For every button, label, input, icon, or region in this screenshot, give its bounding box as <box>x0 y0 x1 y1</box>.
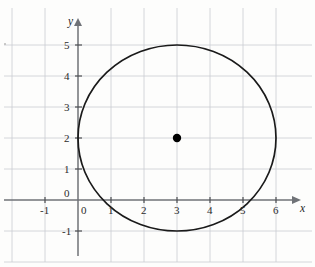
y-tick-label-4: 4 <box>64 71 70 82</box>
x-tick-label-3: 3 <box>174 205 180 216</box>
center-point-marker <box>173 134 181 142</box>
y-tick-label-1: 1 <box>64 164 70 175</box>
y-axis-label: y <box>68 16 73 28</box>
x-tick-label-0: 0 <box>81 205 87 216</box>
axis-lines <box>4 26 292 256</box>
x-tick-label-2: 2 <box>141 205 147 216</box>
x-tick-label-1: 1 <box>108 205 114 216</box>
coordinate-plot <box>0 0 315 267</box>
y-tick-label-3: 3 <box>64 102 70 113</box>
y-tick-label-5: 5 <box>64 40 70 51</box>
y-tick-label-neg1: -1 <box>62 226 71 237</box>
x-axis-label: x <box>300 203 305 215</box>
y-axis-arrowhead <box>74 18 82 26</box>
y-tick-label-0: 0 <box>64 188 70 199</box>
x-tick-label-4: 4 <box>207 205 213 216</box>
y-tick-label-2: 2 <box>64 133 70 144</box>
x-tick-label-neg1: -1 <box>40 205 49 216</box>
x-tick-label-5: 5 <box>240 205 246 216</box>
scan-speck <box>4 43 6 45</box>
graph-figure: -1 0 1 2 3 4 5 6 5 4 3 2 1 0 -1 y x <box>0 0 315 267</box>
x-tick-label-6: 6 <box>273 205 279 216</box>
